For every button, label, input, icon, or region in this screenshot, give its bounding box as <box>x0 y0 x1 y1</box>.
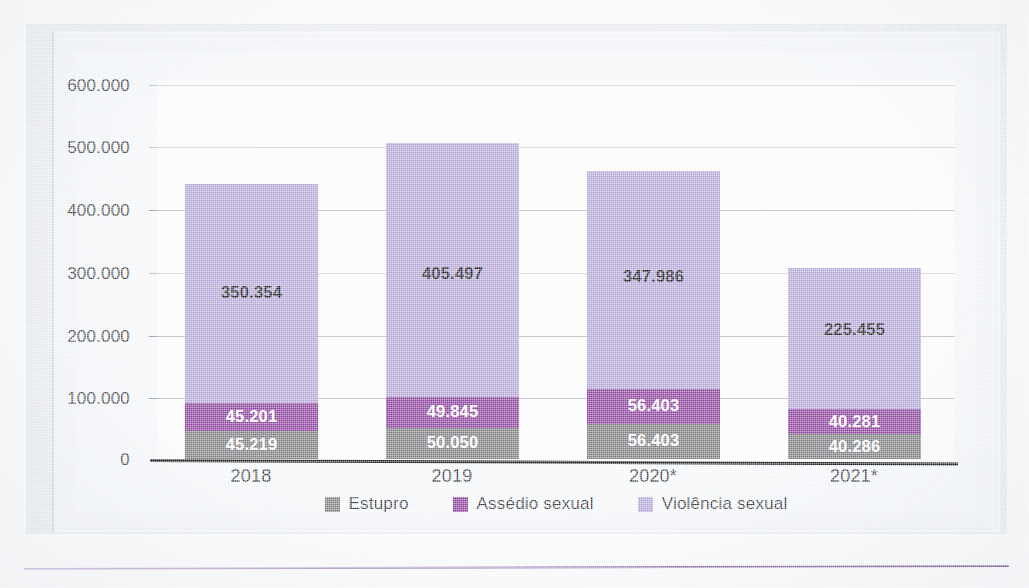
ytick-label-400000: 400.000 <box>18 201 130 221</box>
legend-label-estupro: Estupro <box>349 494 409 514</box>
gridline-600000 <box>157 85 955 86</box>
bar-label-2021-violencia-sexual: 225.455 <box>788 320 921 339</box>
ytick-mark-200000 <box>149 336 157 337</box>
ytick-label-0: 0 <box>18 450 130 470</box>
ytick-label-300000: 300.000 <box>18 264 130 284</box>
bar-label-2021-estupro: 40.286 <box>788 437 921 456</box>
ytick-mark-600000 <box>149 85 157 86</box>
bar-2021-violencia-sexual[interactable]: 225.455 <box>788 268 921 409</box>
bar-label-2019-assedio-sexual: 49.845 <box>386 402 519 421</box>
legend-swatch-violencia-sexual-icon <box>638 497 653 512</box>
legend-swatch-assedio-sexual-icon <box>453 497 468 512</box>
gridline-500000 <box>157 147 955 148</box>
bar-label-2020-violencia-sexual: 347.986 <box>587 267 720 286</box>
bar-2021-assedio-sexual[interactable]: 40.281 <box>788 409 921 434</box>
bar-2020-estupro[interactable]: 56.403 <box>587 424 720 459</box>
bar-label-2021-assedio-sexual: 40.281 <box>788 412 921 431</box>
ytick-mark-100000 <box>149 398 157 399</box>
bar-2019-violencia-sexual[interactable]: 405.497 <box>386 143 519 397</box>
xtick-label-2020: 2020* <box>573 466 733 487</box>
chart: 600.000 500.000 400.000 300.000 200.000 … <box>0 0 1029 588</box>
ytick-mark-300000 <box>149 273 157 274</box>
legend-item-violencia-sexual[interactable]: Violência sexual <box>638 494 788 514</box>
legend-label-violencia-sexual: Violência sexual <box>662 494 788 514</box>
page-margin-right <box>1007 0 1029 560</box>
chart-legend: Estupro Assédio sexual Violência sexual <box>157 494 955 514</box>
ytick-label-100000: 100.000 <box>18 389 130 409</box>
bar-label-2018-violencia-sexual: 350.354 <box>185 283 318 302</box>
bar-label-2019-violencia-sexual: 405.497 <box>386 264 519 283</box>
xtick-label-2018: 2018 <box>171 466 331 487</box>
bar-label-2018-estupro: 45.219 <box>185 435 318 454</box>
bar-2020-violencia-sexual[interactable]: 347.986 <box>587 171 720 389</box>
bar-label-2020-estupro: 56.403 <box>587 431 720 450</box>
bar-2018-violencia-sexual[interactable]: 350.354 <box>185 184 318 403</box>
xtick-label-2019: 2019 <box>372 466 532 487</box>
bar-label-2019-estupro: 50.050 <box>386 433 519 452</box>
bar-2019-assedio-sexual[interactable]: 49.845 <box>386 397 519 428</box>
bar-2020-assedio-sexual[interactable]: 56.403 <box>587 389 720 424</box>
bar-2019-estupro[interactable]: 50.050 <box>386 428 519 459</box>
bar-2021-estupro[interactable]: 40.286 <box>788 434 921 459</box>
bar-2018-estupro[interactable]: 45.219 <box>185 431 318 459</box>
legend-label-assedio-sexual: Assédio sexual <box>477 494 594 514</box>
page-margin-top <box>0 0 1029 24</box>
page-margin-left <box>0 0 26 560</box>
legend-item-assedio-sexual[interactable]: Assédio sexual <box>453 494 594 514</box>
page-margin-bottom <box>0 534 1029 588</box>
bar-2018-assedio-sexual[interactable]: 45.201 <box>185 403 318 431</box>
ytick-label-600000: 600.000 <box>18 76 130 96</box>
bar-label-2018-assedio-sexual: 45.201 <box>185 407 318 426</box>
ytick-mark-400000 <box>149 210 157 211</box>
legend-swatch-estupro-icon <box>325 497 340 512</box>
bar-label-2020-assedio-sexual: 56.403 <box>587 396 720 415</box>
legend-item-estupro[interactable]: Estupro <box>325 494 409 514</box>
ytick-mark-500000 <box>149 147 157 148</box>
scanned-page: 600.000 500.000 400.000 300.000 200.000 … <box>0 0 1029 588</box>
ytick-label-500000: 500.000 <box>18 138 130 158</box>
ytick-label-200000: 200.000 <box>18 327 130 347</box>
xtick-label-2021: 2021* <box>774 466 934 487</box>
